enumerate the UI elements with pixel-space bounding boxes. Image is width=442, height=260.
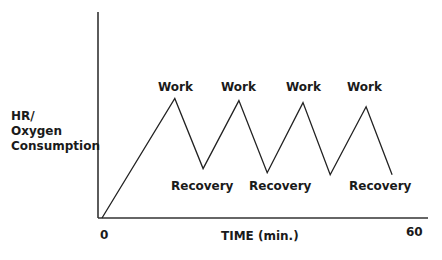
y-label-line-2: Oxygen bbox=[11, 124, 100, 139]
recovery-annotation: Recovery bbox=[349, 179, 411, 194]
y-axis-label: HR/ Oxygen Consumption bbox=[11, 109, 100, 154]
hr-oxygen-line bbox=[102, 99, 392, 219]
work-annotation: Work bbox=[347, 80, 382, 95]
x-axis-label: TIME (min.) bbox=[221, 229, 299, 244]
work-annotation: Work bbox=[158, 80, 193, 95]
recovery-annotation: Recovery bbox=[249, 179, 311, 194]
y-label-line-1: HR/ bbox=[11, 109, 100, 124]
y-label-line-3: Consumption bbox=[11, 139, 100, 154]
x-tick-label: 0 bbox=[100, 228, 108, 243]
recovery-annotation: Recovery bbox=[171, 179, 233, 194]
x-tick-label: 60 bbox=[406, 225, 423, 240]
work-annotation: Work bbox=[221, 80, 256, 95]
work-annotation: Work bbox=[286, 80, 321, 95]
